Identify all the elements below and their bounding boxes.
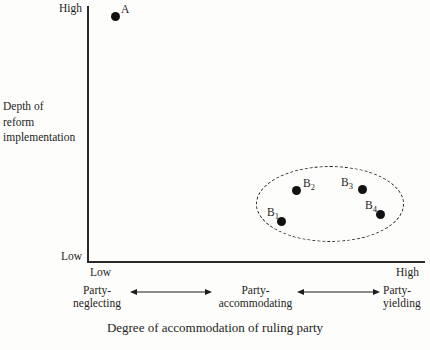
arrow-accommodating-to-yielding xyxy=(297,286,380,298)
data-point-label-b3: B3 xyxy=(341,176,353,189)
data-point-label-a: A xyxy=(121,3,129,15)
regime-accommodating-line-1: Party- xyxy=(213,284,298,297)
y-axis-title-line-3: implementation xyxy=(3,130,85,146)
x-axis-title: Degree of accommodation of ruling party xyxy=(0,320,430,336)
b-cluster-ellipse xyxy=(256,166,404,242)
y-axis-title-line-2: reform xyxy=(3,115,85,131)
data-point-b2 xyxy=(292,186,301,195)
regime-accommodating-line-2: accommodating xyxy=(213,297,298,310)
regime-label-party-accommodating: Party- accommodating xyxy=(213,284,298,310)
y-axis-low-label: Low xyxy=(61,250,82,263)
regime-yielding-line-2: yielding xyxy=(383,297,430,310)
arrow-neglecting-to-accommodating xyxy=(130,286,212,298)
regime-label-party-yielding: Party- yielding xyxy=(383,284,430,310)
y-axis-line xyxy=(87,6,89,263)
y-axis-title-line-1: Depth of xyxy=(3,99,85,115)
regime-neglecting-line-1: Party- xyxy=(57,284,137,297)
regime-yielding-line-1: Party- xyxy=(383,284,430,297)
data-point-label-b2: B2 xyxy=(303,177,315,190)
data-point-label-b1: B1 xyxy=(267,206,279,219)
data-point-a xyxy=(111,12,120,21)
x-axis-low-label: Low xyxy=(90,266,111,279)
scatter-figure: High Low Depth of reform implementation … xyxy=(0,0,430,350)
x-axis-line xyxy=(87,261,425,263)
data-point-b3 xyxy=(358,185,367,194)
regime-label-party-neglecting: Party- neglecting xyxy=(57,284,137,310)
x-axis-high-label: High xyxy=(396,266,419,279)
data-point-label-b4: B4 xyxy=(365,199,377,212)
y-axis-title: Depth of reform implementation xyxy=(3,99,85,146)
y-axis-high-label: High xyxy=(59,2,82,15)
regime-neglecting-line-2: neglecting xyxy=(57,297,137,310)
